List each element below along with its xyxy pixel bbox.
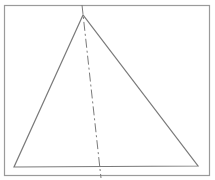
triangle-shape bbox=[14, 15, 198, 167]
frame-border bbox=[5, 6, 210, 176]
dash-dot-axis-line bbox=[82, 5, 101, 178]
diagram-canvas bbox=[0, 0, 215, 180]
